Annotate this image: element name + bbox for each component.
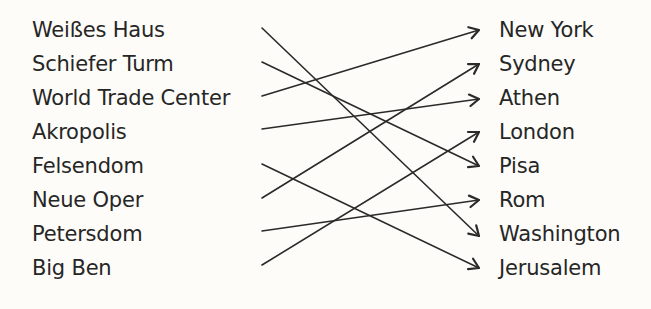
connector-arrow <box>262 132 479 265</box>
city-item: Sydney <box>499 52 576 76</box>
city-item: Athen <box>499 86 560 110</box>
city-item: Rom <box>499 188 545 212</box>
connector-arrow <box>262 196 479 231</box>
city-item: Washington <box>499 222 620 246</box>
city-item: Pisa <box>499 154 540 178</box>
connector-arrow <box>262 27 479 96</box>
city-item: New York <box>499 18 594 42</box>
city-item: Jerusalem <box>499 256 601 280</box>
connector-arrow <box>262 95 479 129</box>
city-item: London <box>499 120 575 144</box>
connector-arrow <box>262 64 479 198</box>
connector-arrow <box>262 164 479 269</box>
